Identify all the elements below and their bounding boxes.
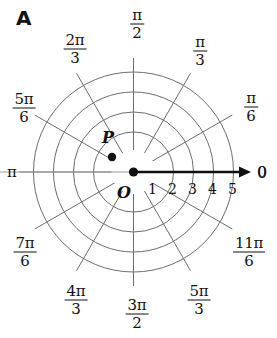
fraction-numerator: 5π: [13, 92, 36, 109]
angle-label-pi-over-3: π3: [193, 35, 207, 68]
fraction-denominator: 6: [233, 253, 265, 269]
fraction-denominator: 6: [14, 253, 37, 269]
angle-label-11pi-over-6: 11π6: [233, 236, 265, 269]
radial-tick-label-1: 1: [148, 181, 157, 197]
angle-label-pi-over-2: π2: [130, 8, 144, 41]
data-point-group: [108, 153, 116, 161]
axis-arrowhead: [239, 167, 251, 178]
fraction-numerator: π: [130, 8, 144, 25]
fraction: 5π6: [13, 92, 36, 125]
fraction-denominator: 3: [193, 52, 207, 68]
fraction: π3: [193, 35, 207, 68]
fraction-denominator: 2: [130, 25, 144, 41]
angle-text: π: [7, 163, 17, 181]
angle-label-2pi-over-3: 2π3: [64, 33, 87, 66]
panel-letter: A: [16, 6, 31, 30]
fraction-numerator: 3π: [126, 298, 149, 315]
fraction-numerator: π: [193, 35, 207, 52]
radial-tick-label-3: 3: [188, 181, 197, 197]
fraction: 2π3: [64, 33, 87, 66]
angle-label-7pi-over-6: 7π6: [14, 236, 37, 269]
polar-grid-graphic: [0, 0, 277, 338]
angle-label-4pi-over-3: 4π3: [65, 284, 88, 317]
fraction-numerator: 7π: [14, 236, 37, 253]
angle-label-3pi-over-2: 3π2: [126, 298, 149, 331]
radial-tick-label-4: 4: [208, 181, 217, 197]
fraction: 7π6: [14, 236, 37, 269]
fraction: 11π6: [233, 236, 265, 269]
fraction: 3π2: [126, 298, 149, 331]
fraction-denominator: 3: [188, 301, 211, 317]
fraction-numerator: π: [244, 91, 258, 108]
radial-tick-label-2: 2: [168, 181, 177, 197]
fraction-numerator: 5π: [188, 284, 211, 301]
fraction-denominator: 3: [64, 50, 87, 66]
angle-label-5pi-over-3: 5π3: [188, 284, 211, 317]
fraction: 5π3: [188, 284, 211, 317]
fraction-denominator: 3: [65, 301, 88, 317]
origin-dot: [129, 167, 138, 176]
radial-tick-label-5: 5: [228, 181, 237, 197]
fraction-denominator: 2: [126, 315, 149, 331]
origin-label: O: [117, 183, 131, 202]
data-point-P: [108, 153, 116, 161]
fraction: π2: [130, 8, 144, 41]
fraction: π6: [244, 91, 258, 124]
polar-chart-figure: A 0π6π3π22π35π6π7π64π33π25π311π6 12345 O…: [0, 0, 277, 338]
angle-label-pi-over-6: π6: [244, 91, 258, 124]
fraction: 4π3: [65, 284, 88, 317]
angle-label-pi: π: [7, 165, 17, 180]
fraction-numerator: 11π: [233, 236, 265, 253]
fraction-denominator: 6: [244, 108, 258, 124]
angle-label-5pi-over-6: 5π6: [13, 92, 36, 125]
polar-axis-zero-label: 0: [257, 163, 267, 182]
fraction-numerator: 4π: [65, 284, 88, 301]
fraction-denominator: 6: [13, 109, 36, 125]
data-point-label-P: P: [102, 128, 114, 147]
fraction-numerator: 2π: [64, 33, 87, 50]
